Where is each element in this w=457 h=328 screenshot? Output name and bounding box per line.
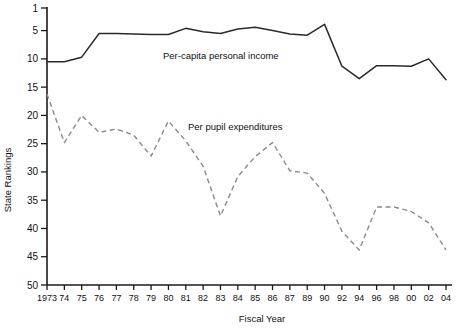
y-tick-label: 40 bbox=[27, 223, 39, 234]
x-tick-label: 92 bbox=[337, 293, 347, 303]
x-tick-label: 85 bbox=[250, 293, 260, 303]
x-tick-label: 83 bbox=[215, 293, 225, 303]
y-tick-label: 5 bbox=[32, 25, 38, 36]
x-tick-label: 89 bbox=[302, 293, 312, 303]
y-tick-label: 15 bbox=[27, 82, 39, 93]
y-tick-label: 35 bbox=[27, 195, 39, 206]
x-tick-label: 87 bbox=[285, 293, 295, 303]
y-tick-label: 1 bbox=[32, 3, 38, 14]
x-tick-label: 86 bbox=[268, 293, 278, 303]
x-tick-label: 76 bbox=[94, 293, 104, 303]
x-tick-label: 78 bbox=[129, 293, 139, 303]
x-tick-label: 02 bbox=[424, 293, 434, 303]
x-axis-ticks: 1973747576777879808182838485868789909294… bbox=[37, 285, 451, 303]
chart-axes bbox=[47, 7, 452, 285]
y-tick-label: 25 bbox=[27, 138, 39, 149]
x-axis-title: Fiscal Year bbox=[239, 313, 285, 324]
line-chart: 15101520253035404550 1973747576777879808… bbox=[0, 0, 457, 328]
x-tick-label: 84 bbox=[233, 293, 243, 303]
y-axis-ticks: 15101520253035404550 bbox=[27, 3, 47, 291]
y-axis-title: State Rankings bbox=[2, 148, 13, 213]
x-tick-label: 96 bbox=[372, 293, 382, 303]
x-tick-label: 81 bbox=[181, 293, 191, 303]
x-tick-label: 79 bbox=[146, 293, 156, 303]
x-tick-label: 77 bbox=[111, 293, 121, 303]
y-tick-label: 20 bbox=[27, 110, 39, 121]
y-tick-label: 30 bbox=[27, 166, 39, 177]
x-tick-label: 90 bbox=[320, 293, 330, 303]
x-tick-label: 80 bbox=[163, 293, 173, 303]
x-tick-label: 94 bbox=[354, 293, 364, 303]
x-tick-label: 98 bbox=[389, 293, 399, 303]
series-line-1 bbox=[47, 94, 446, 250]
x-tick-label: 75 bbox=[77, 293, 87, 303]
x-tick-label: 04 bbox=[441, 293, 451, 303]
x-tick-label: 1973 bbox=[37, 293, 57, 303]
x-tick-label: 74 bbox=[59, 293, 69, 303]
y-tick-label: 50 bbox=[27, 280, 39, 291]
series-annotations: Per-capita personal incomePer pupil expe… bbox=[163, 50, 283, 132]
y-tick-label: 10 bbox=[27, 53, 39, 64]
y-tick-label: 45 bbox=[27, 251, 39, 262]
x-tick-label: 82 bbox=[198, 293, 208, 303]
series-label-0: Per-capita personal income bbox=[163, 50, 279, 61]
x-tick-label: 00 bbox=[406, 293, 416, 303]
series-label-1: Per pupil expenditures bbox=[188, 121, 283, 132]
chart-container: 15101520253035404550 1973747576777879808… bbox=[0, 0, 457, 328]
